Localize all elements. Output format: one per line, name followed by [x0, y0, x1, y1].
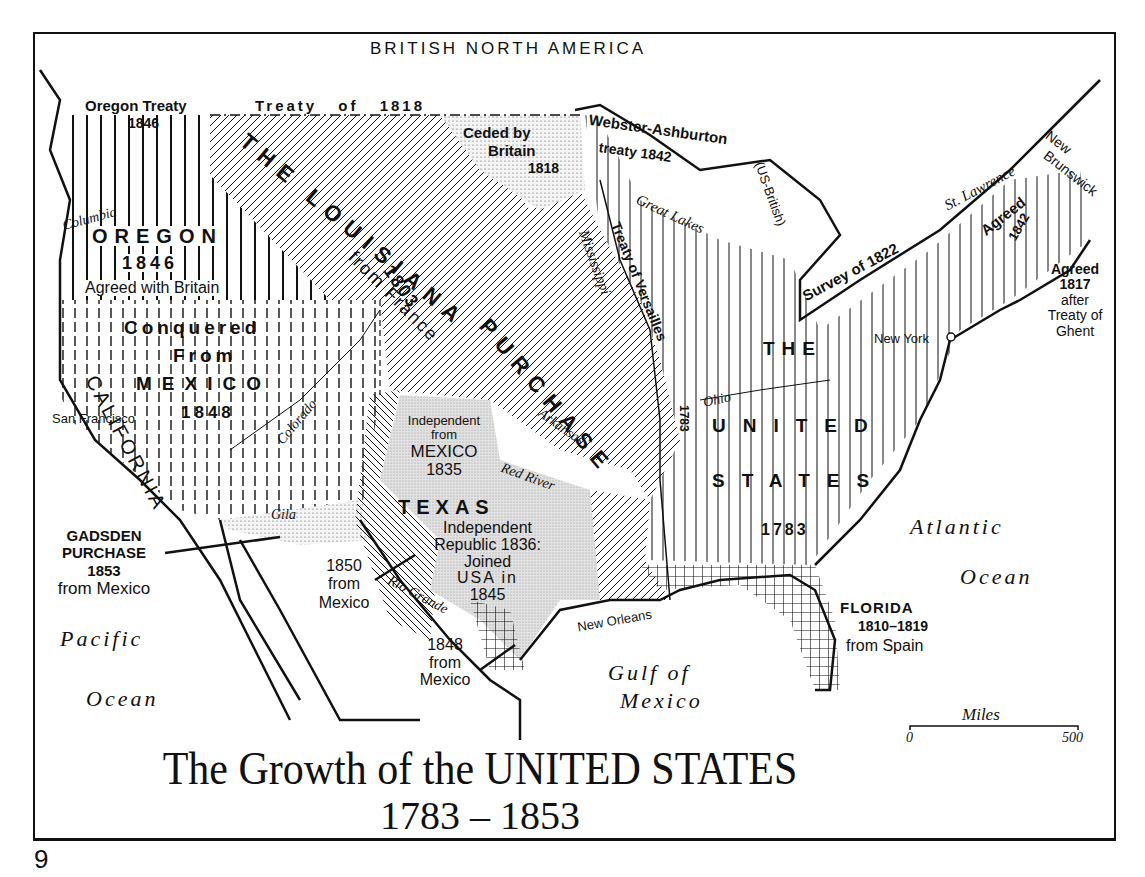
- scale-max: 500: [1062, 731, 1083, 745]
- page-number: 9: [34, 846, 48, 872]
- texas-ind-year: 1835: [398, 461, 490, 479]
- treaty-1818-label: Treaty of 1818: [255, 98, 425, 113]
- oregon-note: Agreed with Britain: [85, 280, 219, 296]
- from-mexico-1850-line3: Mexico: [310, 594, 378, 612]
- oregon-year: 1846: [122, 254, 178, 272]
- gulf-label-2: Mexico: [620, 690, 703, 712]
- agreed-1817-line3: after: [1035, 293, 1115, 308]
- florida-years: 1810–1819: [858, 619, 928, 633]
- texas-republic-label: Independent Republic 1836: Joined USA in…: [430, 520, 545, 604]
- pacific-label-2: Ocean: [86, 688, 158, 710]
- versailles-year: 1783: [678, 405, 690, 432]
- from-mexico-1848-line2: from: [416, 654, 474, 672]
- conquered-line3: MEXICO: [136, 374, 271, 393]
- from-mexico-1850-label: 1850 from Mexico: [310, 557, 378, 612]
- gadsden-year: 1853: [44, 562, 164, 579]
- conquered-line2: From: [173, 346, 237, 365]
- gadsden-line1: GADSDEN: [44, 527, 164, 544]
- gadsden-from: from Mexico: [44, 579, 164, 599]
- from-mexico-1848-label: 1848 from Mexico: [416, 636, 474, 689]
- from-mexico-1850-line2: from: [310, 575, 378, 593]
- texas-independent-label: Independent from MEXICO 1835: [398, 414, 490, 479]
- oregon-treaty-label: Oregon Treaty: [85, 98, 187, 113]
- texas-rep2: Republic 1836:: [430, 537, 545, 554]
- scale-min: 0: [906, 731, 913, 745]
- agreed-1817-label: Agreed 1817 after Treaty of Ghent: [1035, 262, 1115, 339]
- agreed-1817-line5: Ghent: [1035, 324, 1115, 339]
- scale-label: Miles: [962, 706, 1000, 723]
- san-francisco-label: San Francisco: [52, 412, 135, 425]
- gulf-label-1: Gulf of: [608, 662, 691, 684]
- texas-ind1: Independent: [398, 414, 490, 428]
- atlantic-label-2: Ocean: [960, 566, 1032, 588]
- gila-river-label: Gila: [271, 508, 296, 522]
- agreed-1817-line1: Agreed: [1035, 262, 1115, 277]
- map-title: The Growth of the UNITED STATES: [0, 746, 960, 791]
- from-mexico-1848-line3: Mexico: [416, 671, 474, 689]
- oregon-treaty-year: 1846: [128, 116, 159, 130]
- gadsden-arrow: [165, 537, 280, 553]
- gadsden-label: GADSDEN PURCHASE 1853 from Mexico: [44, 527, 164, 598]
- texas-ind3: MEXICO: [398, 443, 490, 462]
- new-york-marker: [947, 333, 955, 341]
- from-mexico-1850-line1: 1850: [310, 557, 378, 575]
- gadsden-line2: PURCHASE: [44, 544, 164, 561]
- pacific-label-1: Pacific: [60, 628, 143, 650]
- florida-from: from Spain: [846, 638, 923, 654]
- florida-name: FLORIDA: [840, 600, 914, 615]
- conquered-line1: Conquered: [124, 318, 260, 337]
- conquered-year: 1848: [181, 404, 235, 421]
- us-line1: THE: [763, 339, 822, 358]
- scale-bar: [910, 726, 1078, 730]
- texas-ind2: from: [398, 428, 490, 442]
- british-north-america-label: BRITISH NORTH AMERICA: [370, 40, 646, 57]
- us-year: 1783: [761, 522, 809, 538]
- us-line2: UNITED: [712, 416, 885, 435]
- texas-rep4: USA in: [430, 570, 545, 587]
- ceded-line2: Britain: [488, 143, 536, 158]
- ceded-line1: Ceded by: [463, 125, 531, 140]
- oregon-name: OREGON: [92, 226, 223, 246]
- new-york-label: New York: [874, 332, 929, 345]
- us-line3: STATES: [712, 471, 886, 490]
- from-mexico-1848-line1: 1848: [416, 636, 474, 654]
- ceded-line3: 1818: [528, 161, 559, 175]
- texas-rep3: Joined: [430, 554, 545, 571]
- texas-name: TEXAS: [398, 497, 495, 517]
- texas-rep1: Independent: [430, 520, 545, 537]
- agreed-1817-line4: Treaty of: [1035, 308, 1115, 323]
- map-subtitle-years: 1783 – 1853: [0, 796, 960, 836]
- atlantic-label-1: Atlantic: [910, 516, 1004, 538]
- agreed-1817-line2: 1817: [1035, 277, 1115, 292]
